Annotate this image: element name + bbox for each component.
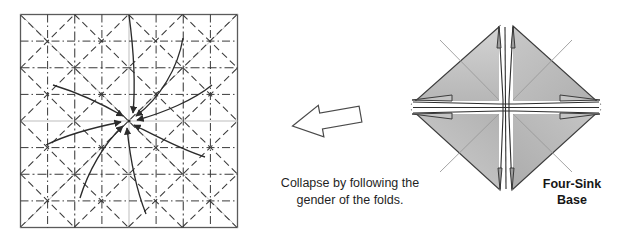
flap-top-left <box>412 26 506 107</box>
four-sink-base-label: Four-Sink Base <box>520 176 624 208</box>
caption-line-1: Collapse by following the <box>250 175 450 192</box>
four-sink-base-figure <box>412 26 600 190</box>
collapse-center-point <box>127 119 130 122</box>
origami-figure-root: Collapse by following the gender of the … <box>0 0 630 240</box>
base-label-line-1: Four-Sink <box>520 176 624 192</box>
step-arrow <box>290 98 364 141</box>
caption-line-2: gender of the folds. <box>250 192 450 209</box>
base-label-line-2: Base <box>520 192 624 208</box>
flap-top-right <box>506 26 600 107</box>
crease-pattern-group <box>21 15 238 228</box>
step-caption: Collapse by following the gender of the … <box>250 175 450 209</box>
